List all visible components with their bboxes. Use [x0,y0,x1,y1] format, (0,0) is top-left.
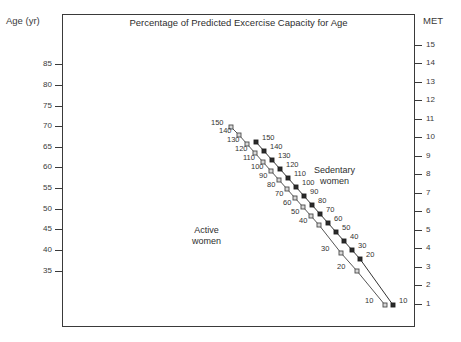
right-tick-mark [415,230,422,231]
data-point-label: 80 [267,180,275,189]
data-point-label: 60 [283,198,291,207]
right-tick-label: 5 [426,225,448,234]
data-point-label: 60 [334,214,342,223]
series-label-sedentary: Sedentary women [314,165,355,187]
data-point-label: 100 [302,178,315,187]
left-tick-mark [55,229,62,230]
data-point-label: 110 [294,169,306,178]
data-point-label: 110 [243,153,255,162]
right-tick-label: 1 [426,299,448,308]
right-tick-label: 2 [426,280,448,289]
right-tick-mark [415,100,422,101]
data-point-label: 100 [251,162,264,171]
plot-frame [62,14,415,327]
right-tick-mark [415,45,422,46]
right-tick-label: 4 [426,243,448,252]
right-tick-mark [415,63,422,64]
left-tick-mark [55,188,62,189]
left-tick-label: 50 [30,204,52,213]
series-label-active: Active women [192,225,221,247]
data-point-label: 80 [318,196,326,205]
left-tick-label: 40 [30,245,52,254]
left-tick-mark [55,106,62,107]
data-point-label: 20 [337,262,345,271]
left-tick-mark [55,147,62,148]
right-tick-label: 7 [426,188,448,197]
data-point-label: 40 [350,232,358,241]
data-point-label: 130 [278,151,291,160]
data-point-label: 120 [235,144,248,153]
right-tick-label: 15 [426,40,448,49]
right-tick-mark [415,211,422,212]
left-tick-mark [55,126,62,127]
data-point-label: 10 [399,296,407,305]
right-tick-label: 12 [426,95,448,104]
right-tick-label: 11 [426,114,448,123]
data-point-label: 120 [286,160,299,169]
met-axis-title: MET [423,15,443,26]
left-tick-label: 55 [30,183,52,192]
data-point-label: 50 [342,223,350,232]
left-tick-mark [55,250,62,251]
left-tick-mark [55,167,62,168]
right-tick-label: 10 [426,132,448,141]
data-point-label: 140 [270,142,283,151]
left-tick-label: 85 [30,59,52,68]
right-tick-label: 9 [426,151,448,160]
series-label-active-line1: Active [192,225,221,236]
right-tick-mark [415,82,422,83]
data-point-label: 10 [365,296,373,305]
right-tick-mark [415,137,422,138]
y-axis-title: Age (yr) [6,15,40,26]
data-point-label: 90 [259,171,267,180]
right-tick-label: 8 [426,169,448,178]
left-tick-label: 80 [30,80,52,89]
left-tick-mark [55,85,62,86]
right-tick-mark [415,156,422,157]
left-tick-label: 35 [30,266,52,275]
left-tick-mark [55,209,62,210]
right-tick-label: 3 [426,262,448,271]
data-point-label: 40 [299,216,307,225]
data-point-label: 140 [219,126,232,135]
left-tick-mark [55,271,62,272]
right-tick-mark [415,285,422,286]
chart-title: Percentage of Predicted Excercise Capaci… [62,17,415,28]
series-label-sedentary-line2: women [314,176,355,187]
data-point-label: 130 [227,135,240,144]
right-tick-mark [415,267,422,268]
right-tick-label: 13 [426,77,448,86]
data-point-label: 90 [310,187,318,196]
left-tick-mark [55,64,62,65]
left-tick-label: 45 [30,224,52,233]
series-label-active-line2: women [192,236,221,247]
right-tick-mark [415,304,422,305]
right-tick-label: 6 [426,206,448,215]
data-point-label: 20 [366,250,374,259]
data-point-label: 70 [326,205,334,214]
data-point-label: 30 [321,244,329,253]
chart-figure: Age (yr) MET Percentage of Predicted Exc… [0,0,461,342]
right-tick-label: 14 [426,58,448,67]
right-tick-mark [415,119,422,120]
series-label-sedentary-line1: Sedentary [314,165,355,176]
right-tick-mark [415,193,422,194]
data-point-label: 70 [275,189,283,198]
left-tick-label: 70 [30,121,52,130]
left-tick-label: 65 [30,142,52,151]
data-point-label: 50 [291,207,299,216]
left-tick-label: 60 [30,162,52,171]
data-point-label: 150 [262,133,275,142]
left-tick-label: 75 [30,101,52,110]
right-tick-mark [415,248,422,249]
data-point-label: 30 [358,241,366,250]
right-tick-mark [415,174,422,175]
